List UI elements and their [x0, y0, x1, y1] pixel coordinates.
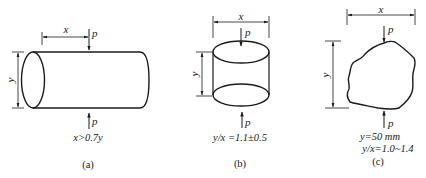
dim-y-label: y: [188, 71, 200, 77]
dim-x-label: x: [63, 23, 69, 35]
panel-b: x p y p y/x =1.1±0.5 (b): [188, 10, 269, 170]
dimension-x: x: [42, 23, 88, 45]
panel-a: x p y p x>0.7y (a): [4, 23, 149, 171]
condition-text-line1: y=50 mm: [359, 131, 400, 142]
load-arrow-top: p: [384, 23, 394, 42]
panel-caption: (a): [82, 159, 94, 171]
panel-caption: (c): [372, 156, 384, 168]
cylinder-vertical: [213, 41, 269, 106]
dim-x-label: x: [238, 10, 244, 22]
dim-x-label: x: [378, 3, 384, 15]
load-bottom-label: p: [91, 115, 98, 127]
cylinder-horizontal: [22, 52, 150, 108]
load-arrow-top: p: [89, 27, 98, 50]
load-top-label: p: [244, 26, 251, 38]
load-arrow-top: p: [241, 26, 251, 46]
dimension-x: x: [347, 3, 415, 25]
load-arrow-bottom: p: [242, 112, 251, 128]
dimension-y: y: [188, 52, 212, 96]
condition-text: x>0.7y: [72, 132, 103, 143]
dimension-y: y: [319, 41, 349, 108]
load-arrow-bottom: p: [384, 111, 394, 129]
load-top-label: p: [91, 27, 98, 39]
panel-c: x p y p y=50 mm y/x=1.0~1.4 (c): [319, 3, 415, 168]
condition-text-line2: y/x=1.0~1.4: [361, 143, 414, 154]
panel-caption: (b): [234, 158, 247, 170]
dim-y-label: y: [4, 77, 16, 83]
load-top-label: p: [387, 23, 394, 35]
condition-text: y/x =1.1±0.5: [212, 132, 267, 143]
irregular-lump-outline: [347, 41, 415, 109]
load-arrow-bottom: p: [89, 113, 98, 129]
dim-y-label: y: [319, 72, 331, 78]
load-bottom-label: p: [387, 117, 394, 129]
diagram-canvas: x p y p x>0.7y (a) x: [0, 0, 426, 178]
load-bottom-label: p: [244, 116, 251, 128]
